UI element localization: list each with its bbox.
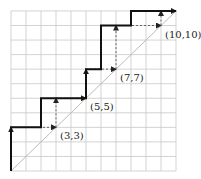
point-labels: (3,3)(5,5)(7,7)(10,10): [60, 29, 201, 142]
staircase-diagram: (3,3)(5,5)(7,7)(10,10): [0, 0, 201, 179]
point-label: (10,10): [165, 29, 201, 40]
diagonal-line: [11, 11, 176, 171]
point-label: (3,3): [60, 130, 84, 141]
point-label: (7,7): [120, 72, 144, 83]
point-label: (5,5): [90, 101, 114, 112]
